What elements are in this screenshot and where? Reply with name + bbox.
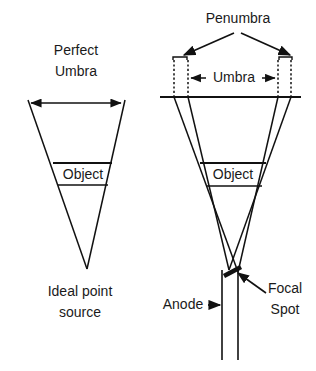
diagram-root: Perfect Umbra Object Ideal point source … bbox=[0, 0, 316, 371]
ray-outer-left bbox=[174, 97, 238, 272]
ray-outer-right bbox=[229, 97, 291, 270]
right-object-label: Object bbox=[213, 166, 254, 182]
penumbra-bracket-left bbox=[173, 57, 187, 60]
left-panel-group: Perfect Umbra Object Ideal point source bbox=[28, 42, 125, 320]
left-source-label-line2: source bbox=[59, 304, 101, 320]
ray-inner-right bbox=[238, 97, 278, 272]
penumbra-arrow-left bbox=[184, 33, 234, 55]
right-panel-group: Penumbra Umbra Object F bbox=[160, 10, 302, 360]
radiography-umbra-penumbra-figure: Perfect Umbra Object Ideal point source … bbox=[0, 0, 316, 371]
left-umbra-label: Umbra bbox=[55, 63, 97, 79]
umbra-label: Umbra bbox=[213, 69, 255, 85]
penumbra-bracket-right bbox=[279, 57, 292, 60]
left-perfect-label: Perfect bbox=[54, 42, 98, 58]
ray-inner-left bbox=[188, 97, 229, 270]
penumbra-label: Penumbra bbox=[206, 10, 271, 26]
anode-label: Anode bbox=[163, 296, 204, 312]
left-object-label: Object bbox=[63, 166, 104, 182]
penumbra-arrow-right bbox=[241, 33, 290, 55]
focal-spot-leader-arrow bbox=[238, 273, 266, 293]
left-source-label-line1: Ideal point bbox=[48, 283, 113, 299]
focal-spot-label-line2: Spot bbox=[271, 301, 300, 317]
focal-spot-label-line1: Focal bbox=[268, 280, 302, 296]
